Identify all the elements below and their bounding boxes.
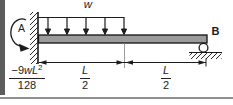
support-b-label: B (208, 25, 223, 37)
roller-icon (199, 43, 208, 52)
beam-figure: w A B −9wL2 128 L 2 L 2 (0, 0, 233, 105)
span-dimension-left: L 2 (73, 65, 97, 91)
moment-value: −9wL2 128 (4, 65, 50, 91)
ground-hatching (190, 53, 222, 59)
moment-denominator: 128 (18, 79, 36, 92)
support-a-label: A (15, 22, 28, 34)
distributed-load-label: w (79, 0, 97, 10)
beam (39, 35, 208, 43)
distributed-load-arrows (45, 18, 126, 35)
wall-hatching (30, 12, 38, 64)
bottom-rule (0, 97, 233, 99)
moment-numerator: −9wL2 (9, 65, 44, 79)
span-dimension-right: L 2 (154, 65, 178, 91)
dimension-line (39, 59, 206, 67)
